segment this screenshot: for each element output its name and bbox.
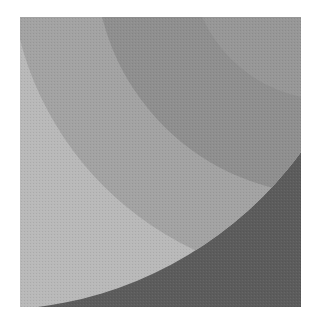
image-canvas: Grayscale halftone print of overlapping … <box>0 0 316 324</box>
concentric-arcs-artwork <box>0 0 316 324</box>
